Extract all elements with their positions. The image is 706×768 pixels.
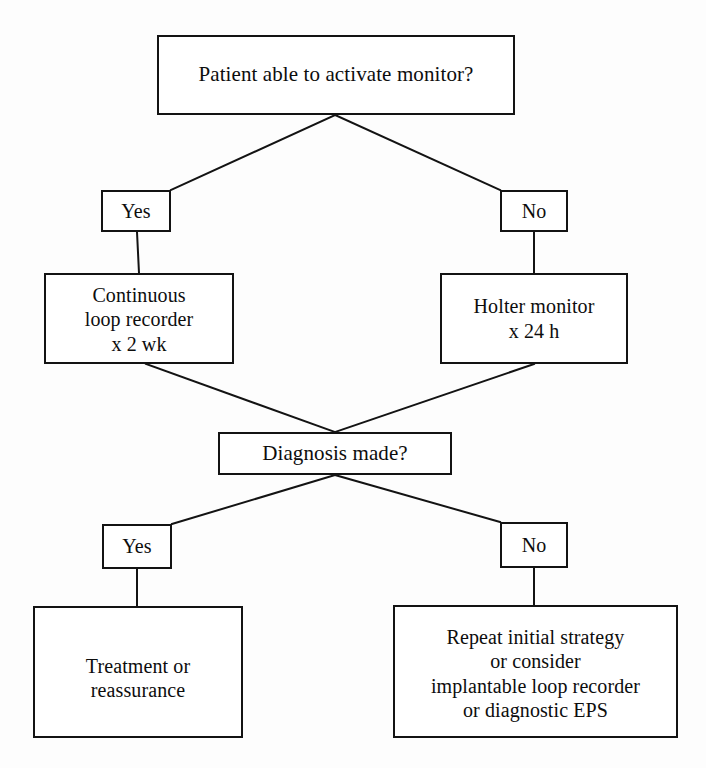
node-question-activate-label: Patient able to activate monitor? (159, 62, 513, 88)
edge-activate-to-no (335, 115, 500, 190)
node-branch2-no: No (500, 522, 568, 568)
flowchart-canvas: Patient able to activate monitor? Yes No… (0, 0, 706, 768)
node-question-diagnosis-label: Diagnosis made? (220, 441, 450, 467)
edge-yes-to-loop-recorder (137, 232, 139, 273)
node-repeat-strategy: Repeat initial strategy or consider impl… (393, 605, 678, 738)
node-branch1-yes: Yes (101, 190, 171, 232)
node-branch1-yes-label: Yes (103, 199, 169, 223)
node-branch1-no: No (500, 190, 568, 232)
node-treatment-label: Treatment or reassurance (35, 654, 241, 703)
edge-diagnosis-to-no (335, 475, 500, 522)
node-treatment: Treatment or reassurance (33, 606, 243, 738)
node-holter-monitor-label: Holter monitor x 24 h (442, 294, 626, 343)
node-repeat-strategy-label: Repeat initial strategy or consider impl… (395, 625, 676, 723)
node-loop-recorder: Continuous loop recorder x 2 wk (44, 273, 234, 364)
node-question-diagnosis: Diagnosis made? (218, 432, 452, 475)
edge-loop-recorder-to-diagnosis (146, 364, 335, 432)
node-branch2-yes: Yes (102, 524, 172, 569)
node-branch2-no-label: No (502, 533, 566, 557)
edge-activate-to-yes (171, 115, 335, 190)
node-branch2-yes-label: Yes (104, 534, 170, 558)
node-loop-recorder-label: Continuous loop recorder x 2 wk (46, 283, 232, 356)
edge-diagnosis-to-yes (172, 475, 335, 524)
node-holter-monitor: Holter monitor x 24 h (440, 273, 628, 364)
node-question-activate: Patient able to activate monitor? (157, 35, 515, 115)
edge-holter-to-diagnosis (335, 364, 534, 432)
node-branch1-no-label: No (502, 199, 566, 223)
